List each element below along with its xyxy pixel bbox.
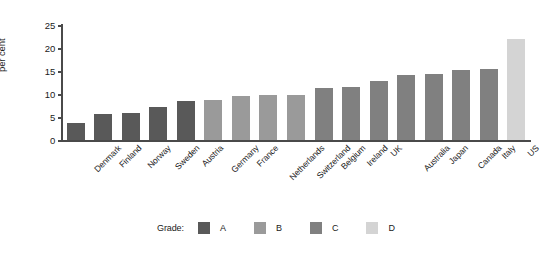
legend-title: Grade:	[157, 223, 184, 233]
legend-swatch	[366, 222, 378, 234]
legend-swatch	[254, 222, 266, 234]
bar-rect	[370, 81, 388, 140]
bar	[452, 70, 470, 140]
legend-swatch	[310, 222, 322, 234]
bar-rect	[315, 88, 333, 140]
x-axis-label: Japan	[446, 143, 469, 166]
y-axis-tick-label: 10	[45, 89, 55, 100]
x-axis-label: US	[526, 143, 541, 158]
bar	[94, 114, 112, 140]
x-axis-label: Ireland	[365, 143, 390, 168]
bar-rect	[67, 123, 85, 140]
x-axis-label: Austria	[200, 143, 225, 168]
bar	[425, 74, 443, 140]
y-axis-tick-label: 0	[50, 135, 55, 146]
bar-rect	[94, 114, 112, 140]
y-axis-tick-label: 15	[45, 66, 55, 77]
legend-label: A	[220, 223, 226, 233]
bar-rect	[259, 95, 277, 140]
y-axis-title-label: per cent	[0, 58, 7, 72]
bar	[204, 100, 222, 140]
legend-label: B	[276, 223, 282, 233]
x-axis-label: Italy	[499, 143, 517, 161]
y-axis-title: per cent	[10, 48, 24, 59]
bar-rect	[177, 101, 195, 140]
bar	[480, 69, 498, 140]
legend-label: C	[332, 223, 339, 233]
x-axis-label: Sweden	[173, 143, 202, 172]
legend-item: C	[310, 222, 339, 234]
bar	[287, 95, 305, 140]
bar	[397, 75, 415, 140]
plot-area: 0510152025	[62, 25, 530, 140]
x-axis-line	[61, 140, 531, 142]
bar-chart: per cent 0510152025 DenmarkFinlandNorway…	[0, 0, 552, 259]
bar	[370, 81, 388, 140]
bar-rect	[204, 100, 222, 140]
bar-rect	[287, 95, 305, 140]
x-axis-label: UK	[388, 143, 403, 158]
legend-swatch	[198, 222, 210, 234]
legend-label: D	[388, 223, 395, 233]
x-axis-label: Canada	[476, 143, 504, 171]
y-axis-tick-label: 5	[50, 112, 55, 123]
y-axis-tick-label: 20	[45, 43, 55, 54]
bar-rect	[480, 69, 498, 140]
x-axis-labels: DenmarkFinlandNorwaySwedenAustriaGermany…	[62, 143, 530, 193]
bar-rect	[149, 107, 167, 140]
y-axis-tick-mark	[58, 140, 62, 142]
bar-rect	[122, 113, 140, 140]
legend-item: B	[254, 222, 282, 234]
legend-item: A	[198, 222, 226, 234]
legend-items: ABCD	[198, 222, 395, 234]
bar	[177, 101, 195, 140]
bar-rect	[397, 75, 415, 140]
legend-item: D	[366, 222, 395, 234]
bar	[259, 95, 277, 140]
bar	[149, 107, 167, 140]
bar	[67, 123, 85, 140]
bar	[507, 39, 525, 140]
x-axis-label: Norway	[145, 143, 172, 170]
x-axis-label: Finland	[117, 143, 144, 170]
bar-rect	[452, 70, 470, 140]
bar	[232, 96, 250, 140]
bar	[315, 88, 333, 140]
x-axis-label: Denmark	[92, 143, 123, 174]
bar-rect	[232, 96, 250, 140]
bar-rect	[507, 39, 525, 140]
y-axis-tick-label: 25	[45, 20, 55, 31]
bar-series	[62, 25, 530, 140]
bar-rect	[342, 87, 360, 140]
bar-rect	[425, 74, 443, 140]
bar	[122, 113, 140, 140]
chart-legend: Grade: ABCD	[0, 222, 552, 234]
bar	[342, 87, 360, 140]
